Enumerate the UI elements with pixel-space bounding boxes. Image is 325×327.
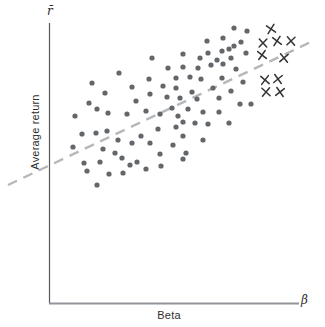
scatter-dot bbox=[70, 144, 75, 149]
scatter-dot bbox=[226, 120, 231, 125]
scatter-dot bbox=[143, 108, 148, 113]
scatter-dot bbox=[124, 111, 129, 116]
scatter-dot bbox=[105, 110, 110, 115]
scatter-dot bbox=[86, 100, 91, 105]
scatter-dot bbox=[220, 61, 225, 66]
scatter-dot bbox=[192, 120, 197, 125]
x-marker bbox=[262, 88, 270, 97]
y-axis-end-symbol: r̄ bbox=[47, 4, 53, 18]
scatter-dot bbox=[127, 162, 132, 167]
scatter-dot bbox=[208, 62, 213, 67]
scatter-dot bbox=[175, 113, 180, 118]
scatter-dot bbox=[226, 46, 231, 51]
scatter-dot bbox=[157, 151, 162, 156]
x-marker bbox=[258, 51, 267, 60]
scatter-dot bbox=[205, 50, 210, 55]
scatter-dot bbox=[204, 38, 209, 43]
dot-series-group bbox=[70, 25, 253, 187]
scatter-dot bbox=[100, 146, 105, 151]
scatter-dot bbox=[165, 65, 170, 70]
scatter-dot bbox=[228, 88, 233, 93]
scatter-dot bbox=[228, 55, 233, 60]
x-marker bbox=[259, 39, 267, 47]
scatter-dot bbox=[180, 133, 185, 138]
scatter-dot bbox=[115, 137, 120, 142]
scatter-dot bbox=[243, 50, 248, 55]
scatter-dot bbox=[120, 170, 125, 175]
scatter-dot bbox=[238, 39, 243, 44]
scatter-dot bbox=[248, 101, 253, 106]
scatter-dot bbox=[94, 106, 99, 111]
scatter-dot bbox=[189, 89, 194, 94]
scatter-dot bbox=[149, 55, 154, 60]
scatter-dot bbox=[134, 159, 139, 164]
scatter-dot bbox=[195, 65, 200, 70]
scatter-dot bbox=[72, 113, 77, 118]
scatter-dot bbox=[216, 109, 221, 114]
scatter-dot bbox=[104, 128, 109, 133]
scatter-dot bbox=[97, 159, 102, 164]
scatter-dot bbox=[200, 137, 205, 142]
scatter-dot bbox=[155, 126, 160, 131]
scatter-dot bbox=[138, 133, 143, 138]
scatter-dot bbox=[160, 83, 165, 88]
scatter-dot bbox=[219, 75, 224, 80]
scatter-dot bbox=[237, 101, 242, 106]
scatter-dot bbox=[173, 124, 178, 129]
scatter-dot bbox=[170, 142, 175, 147]
x-axis-label: Beta bbox=[157, 309, 180, 321]
scatter-dot bbox=[185, 106, 190, 111]
scatter-dot bbox=[180, 64, 185, 69]
scatter-dot bbox=[244, 28, 249, 33]
scatter-dot bbox=[205, 121, 210, 126]
scatter-dot bbox=[133, 98, 138, 103]
scatter-dot bbox=[180, 156, 185, 161]
scatter-dot bbox=[231, 43, 236, 48]
x-marker bbox=[280, 54, 288, 63]
scatter-dot bbox=[214, 57, 219, 62]
scatter-dot bbox=[169, 105, 174, 110]
scatter-dot bbox=[180, 51, 185, 56]
scatter-dot bbox=[200, 109, 205, 114]
scatter-dot bbox=[197, 55, 202, 60]
scatter-dot bbox=[183, 150, 188, 155]
scatter-dot bbox=[177, 95, 182, 100]
x-marker bbox=[261, 76, 269, 85]
scatter-dot bbox=[194, 96, 199, 101]
scatter-dot bbox=[119, 155, 124, 160]
scatter-dot bbox=[240, 79, 245, 84]
scatter-dot bbox=[164, 94, 169, 99]
y-axis-label: Average return bbox=[29, 94, 41, 169]
scatter-dot bbox=[84, 168, 89, 173]
x-marker bbox=[276, 87, 285, 96]
scatter-dot bbox=[116, 70, 121, 75]
scatter-dot bbox=[129, 140, 134, 145]
scatter-dot bbox=[220, 35, 225, 40]
scatter-dot bbox=[210, 85, 215, 90]
scatter-dot bbox=[219, 48, 224, 53]
scatter-dot bbox=[89, 80, 94, 85]
scatter-dot bbox=[102, 90, 107, 95]
x-series-group bbox=[258, 24, 295, 96]
scatter-dot bbox=[173, 85, 178, 90]
scatter-dot bbox=[187, 74, 192, 79]
scatter-dot bbox=[158, 163, 163, 168]
scatter-dot bbox=[106, 171, 111, 176]
x-marker bbox=[274, 75, 283, 84]
scatter-dot bbox=[94, 182, 99, 187]
scatter-dot bbox=[143, 166, 148, 171]
scatter-dot bbox=[233, 66, 238, 71]
x-axis-end-symbol: β bbox=[301, 293, 308, 307]
scatter-plot-figure: Average return Beta r̄ β bbox=[0, 0, 325, 327]
scatter-dot bbox=[93, 130, 98, 135]
scatter-dot bbox=[231, 25, 236, 30]
scatter-dot bbox=[147, 91, 152, 96]
scatter-dot bbox=[216, 95, 221, 100]
x-marker bbox=[273, 36, 282, 45]
x-marker bbox=[266, 24, 275, 33]
x-marker bbox=[287, 37, 295, 45]
scatter-dot bbox=[81, 160, 86, 165]
scatter-dot bbox=[157, 111, 162, 116]
scatter-dot bbox=[79, 131, 84, 136]
scatter-dot bbox=[146, 76, 151, 81]
